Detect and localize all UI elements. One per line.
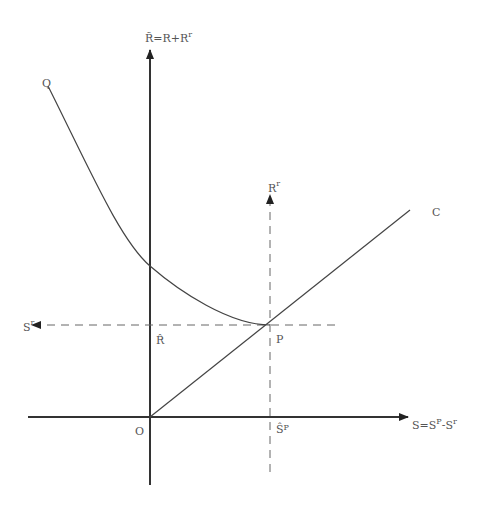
x-axis-label: S=SP-Sr	[412, 417, 457, 432]
rr-axis-label: Rr	[268, 179, 280, 195]
curve-q	[48, 86, 270, 325]
origin-label: O	[135, 425, 144, 438]
line-c-label: C	[432, 206, 440, 219]
y-axis-label: R̃=R+Rr	[145, 30, 192, 45]
sr-axis-label: Sr	[23, 318, 35, 334]
point-p-label: P	[276, 333, 284, 346]
line-c	[150, 210, 410, 417]
curve-q-label: Q	[42, 77, 51, 90]
diagram-canvas: R̃=R+Rr Q Rr C Sr R̂ P O ŜP S=SP-Sr	[0, 0, 490, 508]
sp-hat-label: ŜP	[276, 422, 290, 436]
r-hat-label: R̂	[156, 334, 165, 347]
